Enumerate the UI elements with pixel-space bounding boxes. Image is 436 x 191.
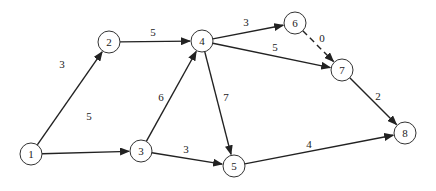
- dashed-arrow: [303, 31, 334, 62]
- arrow: [245, 135, 393, 164]
- edge-weight-label: 3: [183, 143, 189, 155]
- edge-4-5: 7: [205, 52, 231, 155]
- edge-7-8: 2: [350, 78, 397, 125]
- edge-weight-label: 5: [272, 41, 278, 53]
- edge-1-3: 5: [42, 110, 129, 154]
- edge-6-7: 0: [303, 31, 334, 62]
- node-2: 2: [98, 31, 120, 53]
- node-label: 1: [28, 148, 34, 160]
- node-label: 6: [292, 17, 298, 29]
- arrow: [205, 52, 231, 155]
- node-label: 7: [339, 64, 345, 76]
- node-label: 5: [231, 160, 237, 172]
- edge-weight-label: 0: [319, 32, 325, 44]
- edge-1-2: 3: [37, 52, 102, 145]
- edge-3-4: 6: [146, 51, 196, 141]
- arrow: [350, 78, 397, 125]
- node-3: 3: [130, 140, 152, 162]
- node-5: 5: [223, 155, 245, 177]
- edge-weight-label: 2: [375, 90, 381, 102]
- arrow: [37, 52, 102, 145]
- edge-weight-label: 6: [158, 91, 164, 103]
- edge-weight-label: 4: [306, 138, 312, 150]
- edge-weight-label: 7: [223, 91, 229, 103]
- network-diagram: 35563357024 12345678: [0, 0, 436, 191]
- node-7: 7: [331, 59, 353, 81]
- node-label: 4: [199, 35, 205, 47]
- edge-4-7: 5: [213, 41, 330, 68]
- edge-2-4: 5: [120, 26, 190, 42]
- edge-weight-label: 3: [59, 58, 65, 70]
- node-label: 2: [106, 36, 112, 48]
- node-6: 6: [284, 12, 306, 34]
- arrow: [146, 51, 196, 141]
- arrow: [120, 41, 190, 42]
- node-8: 8: [394, 122, 416, 144]
- node-4: 4: [191, 30, 213, 52]
- arrow: [42, 151, 129, 153]
- edges-layer: 35563357024: [37, 16, 396, 164]
- node-1: 1: [20, 143, 42, 165]
- node-label: 8: [402, 127, 408, 139]
- edge-weight-label: 5: [150, 26, 156, 38]
- edge-weight-label: 3: [243, 16, 249, 28]
- edge-4-6: 3: [213, 16, 283, 39]
- edge-5-8: 4: [245, 135, 393, 164]
- edge-weight-label: 5: [86, 110, 92, 122]
- node-label: 3: [138, 145, 144, 157]
- edge-3-5: 3: [152, 143, 222, 164]
